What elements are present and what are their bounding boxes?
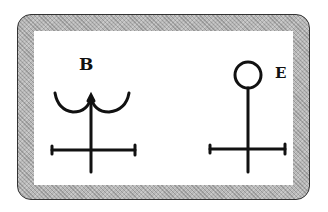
symbol-b-label: B xyxy=(79,54,93,74)
symbols-drawing xyxy=(0,0,328,212)
symbol-e-icon xyxy=(210,62,285,172)
symbol-e-label: E xyxy=(275,64,286,82)
symbol-b-icon xyxy=(52,93,135,172)
